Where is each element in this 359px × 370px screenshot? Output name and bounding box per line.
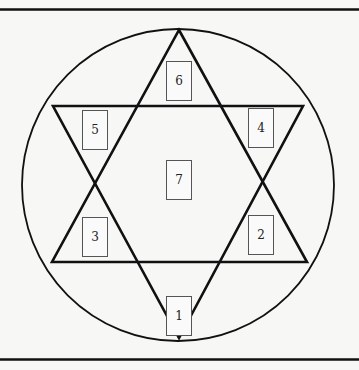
box-1: 1 bbox=[166, 296, 192, 336]
box-4-label: 4 bbox=[257, 121, 265, 135]
box-5-label: 5 bbox=[91, 123, 99, 137]
box-2: 2 bbox=[248, 215, 274, 255]
box-5: 5 bbox=[82, 110, 108, 150]
box-3: 3 bbox=[82, 217, 108, 257]
box-6-label: 6 bbox=[175, 74, 183, 88]
box-4: 4 bbox=[248, 108, 274, 148]
box-6: 6 bbox=[166, 61, 192, 101]
box-7-label: 7 bbox=[175, 173, 183, 187]
box-2-label: 2 bbox=[257, 228, 265, 242]
box-7: 7 bbox=[166, 160, 192, 200]
box-1-label: 1 bbox=[175, 309, 183, 323]
box-3-label: 3 bbox=[91, 230, 99, 244]
